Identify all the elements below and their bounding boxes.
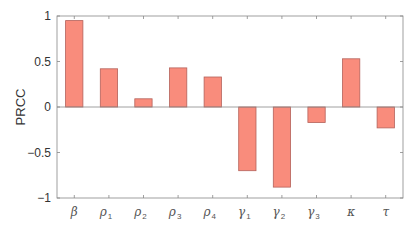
- bar-8: [343, 59, 360, 107]
- x-ticks-group: βρ1ρ2ρ3ρ4γ1γ2γ3κτ: [70, 16, 390, 221]
- bar-9: [377, 107, 394, 128]
- x-category-label: ρ3: [168, 205, 182, 221]
- y-tick-label: −0.5: [27, 146, 51, 160]
- x-category-label: γ1: [238, 205, 251, 221]
- bar-0: [66, 21, 83, 107]
- x-category-label: ρ2: [133, 205, 147, 221]
- x-category-label: γ2: [273, 205, 286, 221]
- x-category-label: τ: [382, 205, 389, 219]
- bars-group: [66, 21, 395, 188]
- bar-3: [170, 68, 187, 107]
- x-category-label: ρ4: [202, 205, 216, 221]
- x-category-label: κ: [346, 205, 355, 219]
- bar-7: [308, 107, 325, 123]
- x-category-label: γ3: [307, 205, 320, 221]
- prcc-bar-chart: −1−0.500.51 βρ1ρ2ρ3ρ4γ1γ2γ3κτ PRCC: [0, 0, 417, 232]
- y-axis-label: PRCC: [13, 89, 28, 126]
- bar-2: [135, 99, 152, 107]
- bar-6: [273, 107, 290, 187]
- axes-group: [57, 16, 403, 198]
- y-tick-label: 0: [44, 100, 51, 114]
- y-tick-label: 1: [44, 9, 51, 23]
- bar-4: [204, 77, 221, 107]
- x-category-label: β: [70, 205, 78, 219]
- bar-5: [239, 107, 256, 171]
- bar-1: [100, 69, 117, 107]
- y-tick-label: −1: [37, 191, 51, 205]
- y-tick-label: 0.5: [34, 55, 51, 69]
- x-category-label: ρ1: [99, 205, 113, 221]
